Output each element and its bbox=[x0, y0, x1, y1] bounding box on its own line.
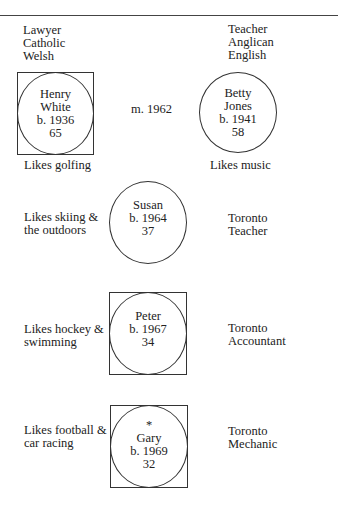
father-ethnicity: Welsh bbox=[23, 50, 65, 63]
peter-hobby-line2: swimming bbox=[24, 336, 104, 349]
susan-details: Toronto Teacher bbox=[228, 212, 267, 238]
peter-hobbies: Likes hockey & swimming bbox=[24, 323, 104, 349]
susan-occupation: Teacher bbox=[228, 225, 267, 238]
mother-attributes: Teacher Anglican English bbox=[228, 23, 274, 62]
father-node: Henry White b. 1936 65 bbox=[17, 72, 94, 155]
peter-node: Peter b. 1967 34 bbox=[109, 292, 187, 375]
father-last-name: White bbox=[40, 101, 71, 114]
peter-occupation: Accountant bbox=[228, 335, 286, 348]
peter-details: Toronto Accountant bbox=[228, 322, 286, 348]
father-first-name: Henry bbox=[40, 88, 71, 101]
gary-hobby-line2: car racing bbox=[24, 437, 107, 450]
gary-details: Toronto Mechanic bbox=[228, 425, 277, 451]
mother-node: Betty Jones b. 1941 58 bbox=[199, 72, 277, 153]
susan-hobby-line2: the outdoors bbox=[24, 224, 98, 237]
mother-first-name: Betty bbox=[224, 87, 251, 100]
marriage-label: m. 1962 bbox=[131, 103, 172, 116]
mother-birth: b. 1941 bbox=[219, 113, 257, 126]
susan-age: 37 bbox=[142, 225, 155, 238]
susan-node: Susan b. 1964 37 bbox=[109, 181, 187, 264]
peter-age: 34 bbox=[142, 336, 155, 349]
father-birth: b. 1936 bbox=[37, 114, 75, 127]
gary-age: 32 bbox=[143, 458, 156, 471]
mother-ethnicity: English bbox=[228, 49, 274, 62]
father-attributes: Lawyer Catholic Welsh bbox=[23, 24, 65, 63]
gary-occupation: Mechanic bbox=[228, 438, 277, 451]
father-age: 65 bbox=[49, 127, 62, 140]
mother-age: 58 bbox=[232, 126, 245, 139]
top-divider-line bbox=[0, 15, 338, 16]
gary-node: * Gary b. 1969 32 bbox=[110, 405, 188, 488]
gary-birth: b. 1969 bbox=[130, 445, 168, 458]
father-note: Likes golfing bbox=[24, 159, 91, 172]
gary-name: Gary bbox=[137, 432, 162, 445]
mother-note: Likes music bbox=[210, 159, 271, 172]
gary-identified-patient-marker: * bbox=[146, 419, 152, 432]
susan-hobbies: Likes skiing & the outdoors bbox=[24, 211, 98, 237]
mother-last-name: Jones bbox=[224, 100, 252, 113]
gary-hobbies: Likes football & car racing bbox=[24, 424, 107, 450]
